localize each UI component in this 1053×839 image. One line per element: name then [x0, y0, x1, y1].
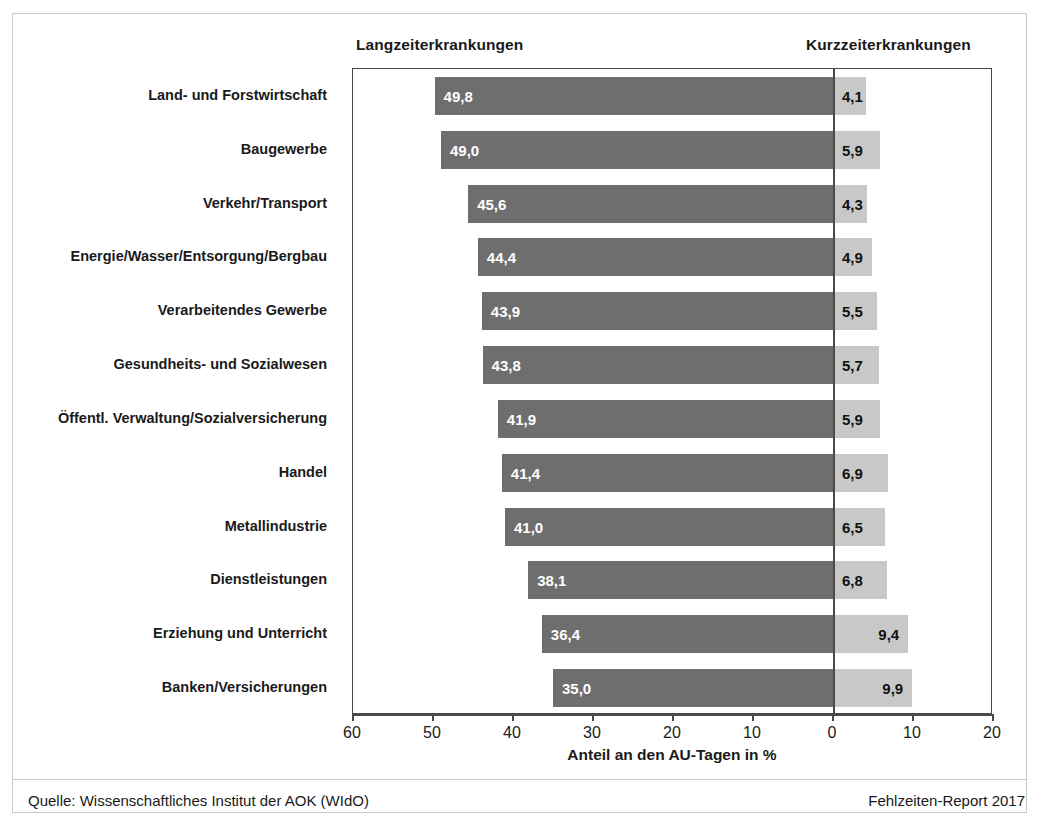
- x-axis-tick: [912, 714, 914, 721]
- bar-langzeit: 43,8: [483, 346, 833, 384]
- x-axis-tick-label: 20: [663, 724, 681, 742]
- footer-report-text: Fehlzeiten-Report 2017: [868, 792, 1025, 809]
- category-label: Verarbeitendes Gewerbe: [0, 291, 340, 329]
- bar-row: 35,09,9: [353, 669, 991, 707]
- category-label: Verkehr/Transport: [0, 184, 340, 222]
- figure-root: Langzeiterkrankungen Kurzzeiterkrankunge…: [0, 0, 1053, 839]
- category-label: Dienstleistungen: [0, 560, 340, 598]
- bar-langzeit: 41,4: [502, 454, 833, 492]
- x-axis-tick: [832, 714, 834, 721]
- x-axis-tick: [352, 714, 354, 721]
- bar-kurzzeit: 9,9: [833, 669, 912, 707]
- bar-value-kurzzeit: 5,9: [842, 411, 863, 426]
- bar-langzeit: 41,0: [505, 508, 833, 546]
- category-label: Metallindustrie: [0, 507, 340, 545]
- x-axis-tick-label: 0: [828, 724, 837, 742]
- bar-langzeit: 44,4: [478, 238, 833, 276]
- category-label-column: Land- und ForstwirtschaftBaugewerbeVerke…: [0, 68, 340, 714]
- bar-value-langzeit: 49,0: [450, 142, 479, 157]
- bar-kurzzeit: 6,5: [833, 508, 885, 546]
- x-axis-tick: [752, 714, 754, 721]
- category-label: Gesundheits- und Sozialwesen: [0, 345, 340, 383]
- x-axis-title: Anteil an den AU-Tagen in %: [352, 746, 992, 764]
- x-axis-tick: [992, 714, 994, 721]
- bar-value-langzeit: 43,9: [491, 304, 520, 319]
- bar-value-langzeit: 35,0: [562, 681, 591, 696]
- bar-value-kurzzeit: 6,9: [842, 465, 863, 480]
- bar-langzeit: 45,6: [468, 185, 833, 223]
- bar-kurzzeit: 6,9: [833, 454, 888, 492]
- bar-kurzzeit: 4,9: [833, 238, 872, 276]
- bar-langzeit: 49,8: [435, 77, 833, 115]
- bar-value-kurzzeit: 9,9: [882, 681, 903, 696]
- bar-value-kurzzeit: 4,3: [842, 196, 863, 211]
- bar-value-langzeit: 41,0: [514, 519, 543, 534]
- bar-value-langzeit: 41,4: [511, 465, 540, 480]
- bar-row: 36,49,4: [353, 615, 991, 653]
- category-label: Öffentl. Verwaltung/Sozialversicherung: [0, 399, 340, 437]
- bar-langzeit: 49,0: [441, 131, 833, 169]
- x-axis-tick: [432, 714, 434, 721]
- category-label: Energie/Wasser/Entsorgung/Bergbau: [0, 237, 340, 275]
- bar-value-langzeit: 41,9: [507, 411, 536, 426]
- category-label: Handel: [0, 453, 340, 491]
- plot-area: 49,84,149,05,945,64,344,44,943,95,543,85…: [352, 68, 992, 714]
- bar-langzeit: 43,9: [482, 292, 833, 330]
- bar-kurzzeit: 5,9: [833, 131, 880, 169]
- bar-row: 41,06,5: [353, 508, 991, 546]
- bar-value-kurzzeit: 4,1: [842, 88, 863, 103]
- bar-row: 38,16,8: [353, 561, 991, 599]
- bar-row: 45,64,3: [353, 185, 991, 223]
- bar-value-kurzzeit: 6,8: [842, 573, 863, 588]
- bar-row: 49,84,1: [353, 77, 991, 115]
- bar-kurzzeit: 9,4: [833, 615, 908, 653]
- zero-axis-line: [833, 69, 835, 713]
- category-label: Baugewerbe: [0, 130, 340, 168]
- bar-value-kurzzeit: 9,4: [878, 627, 899, 642]
- x-axis-tick-label: 60: [343, 724, 361, 742]
- bar-row: 44,44,9: [353, 238, 991, 276]
- bar-kurzzeit: 5,5: [833, 292, 877, 330]
- bar-value-kurzzeit: 5,9: [842, 142, 863, 157]
- category-label: Banken/Versicherungen: [0, 668, 340, 706]
- x-axis-tick: [592, 714, 594, 721]
- bar-value-langzeit: 36,4: [551, 627, 580, 642]
- category-label: Erziehung und Unterricht: [0, 614, 340, 652]
- bar-kurzzeit: 5,7: [833, 346, 879, 384]
- bar-value-langzeit: 43,8: [492, 358, 521, 373]
- bar-value-langzeit: 44,4: [487, 250, 516, 265]
- bar-value-langzeit: 45,6: [477, 196, 506, 211]
- column-header-langzeit: Langzeiterkrankungen: [356, 36, 523, 54]
- bar-row: 43,85,7: [353, 346, 991, 384]
- bar-value-kurzzeit: 6,5: [842, 519, 863, 534]
- category-label: Land- und Forstwirtschaft: [0, 76, 340, 114]
- x-axis-tick-label: 20: [983, 724, 1001, 742]
- footer-source-text: Quelle: Wissenschaftliches Institut der …: [28, 792, 369, 809]
- x-axis-tick-label: 10: [743, 724, 761, 742]
- bar-kurzzeit: 4,1: [833, 77, 866, 115]
- bar-kurzzeit: 6,8: [833, 561, 887, 599]
- bar-value-kurzzeit: 5,5: [842, 304, 863, 319]
- bar-value-langzeit: 49,8: [444, 88, 473, 103]
- bar-value-kurzzeit: 5,7: [842, 358, 863, 373]
- bar-langzeit: 36,4: [542, 615, 833, 653]
- x-axis-tick-label: 10: [903, 724, 921, 742]
- x-axis-tick-label: 40: [503, 724, 521, 742]
- bar-value-langzeit: 38,1: [537, 573, 566, 588]
- x-axis-tick: [672, 714, 674, 721]
- footer-divider: [13, 779, 1026, 780]
- column-header-kurzzeit: Kurzzeiterkrankungen: [806, 36, 971, 54]
- bar-value-kurzzeit: 4,9: [842, 250, 863, 265]
- bar-kurzzeit: 4,3: [833, 185, 867, 223]
- bar-row: 41,95,9: [353, 400, 991, 438]
- x-axis-tick-label: 50: [423, 724, 441, 742]
- bar-kurzzeit: 5,9: [833, 400, 880, 438]
- x-axis-tick-label: 30: [583, 724, 601, 742]
- bar-row: 41,46,9: [353, 454, 991, 492]
- bar-langzeit: 41,9: [498, 400, 833, 438]
- bar-langzeit: 38,1: [528, 561, 833, 599]
- bar-row: 43,95,5: [353, 292, 991, 330]
- x-axis-tick: [512, 714, 514, 721]
- bar-row: 49,05,9: [353, 131, 991, 169]
- bar-langzeit: 35,0: [553, 669, 833, 707]
